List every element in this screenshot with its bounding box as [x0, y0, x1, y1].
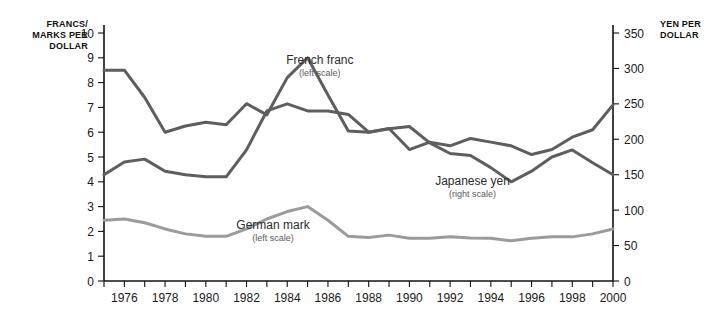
series-label-french-franc: French franc	[286, 53, 353, 67]
year-axis-tick-label: 1976	[111, 291, 138, 305]
series-sublabel-german-mark: (left scale)	[252, 233, 294, 243]
series-label-german-mark: German mark	[236, 218, 310, 232]
series-layer	[104, 58, 613, 241]
currency-exchange-chart: FRANCS/ MARKS PER DOLLAR YEN PER DOLLAR …	[0, 0, 713, 315]
year-axis-tick-label: 1992	[437, 291, 464, 305]
left-axis-tick-label: 5	[87, 151, 94, 165]
left-axis-tick-label: 1	[87, 250, 94, 264]
year-axis: 1976197819801982198419861988199019921994…	[104, 281, 627, 305]
left-axis-tick-label: 2	[87, 225, 94, 239]
right-axis-tick-label: 200	[624, 133, 644, 147]
left-axis-tick-label: 9	[87, 51, 94, 65]
right-axis-tick-label: 50	[624, 239, 638, 253]
year-axis-tick-label: 1996	[518, 291, 545, 305]
left-axis-tick-label: 6	[87, 126, 94, 140]
right-axis-tick-label: 150	[624, 168, 644, 182]
chart-canvas: FRANCS/ MARKS PER DOLLAR YEN PER DOLLAR …	[0, 0, 713, 315]
year-axis-tick-label: 1980	[192, 291, 219, 305]
right-axis-tick-label: 300	[624, 62, 644, 76]
year-axis-tick-label: 1984	[274, 291, 301, 305]
left-axis-tick-label: 7	[87, 101, 94, 115]
left-axis-title-line3: DOLLAR	[49, 41, 88, 51]
year-axis-tick-label: 1978	[152, 291, 179, 305]
left-axis-tick-label: 4	[87, 175, 94, 189]
right-axis-tick-label: 0	[624, 275, 631, 289]
series-sublabel-japanese-yen: (right scale)	[449, 189, 496, 199]
left-axis-tick-label: 3	[87, 200, 94, 214]
series-label-japanese-yen: Japanese yen	[435, 174, 510, 188]
left-axis-tick-label: 0	[87, 275, 94, 289]
left-axis-tick-label: 10	[81, 27, 95, 41]
year-axis-tick-label: 1994	[477, 291, 504, 305]
right-axis-title-group: YEN PER DOLLAR	[660, 19, 701, 40]
year-axis-tick-label: 1988	[355, 291, 382, 305]
year-axis-tick-label: 1986	[315, 291, 342, 305]
series-line-german-mark	[104, 207, 613, 241]
right-axis-tick-label: 350	[624, 27, 644, 41]
right-value-axis: 050100150200250300350	[613, 25, 644, 289]
left-axis-tick-label: 8	[87, 76, 94, 90]
series-line-french-franc	[104, 58, 613, 155]
year-axis-tick-label: 1998	[559, 291, 586, 305]
year-axis-tick-label: 1982	[233, 291, 260, 305]
series-line-japanese-yen	[104, 104, 613, 182]
right-axis-tick-label: 250	[624, 97, 644, 111]
right-axis-title-line2: DOLLAR	[660, 30, 699, 40]
left-value-axis: 012345678910	[81, 25, 104, 289]
series-sublabel-french-franc: (left scale)	[299, 68, 341, 78]
year-axis-tick-label: 1990	[396, 291, 423, 305]
right-axis-tick-label: 100	[624, 204, 644, 218]
right-axis-title-line1: YEN PER	[660, 19, 701, 29]
year-axis-tick-label: 2000	[600, 291, 627, 305]
